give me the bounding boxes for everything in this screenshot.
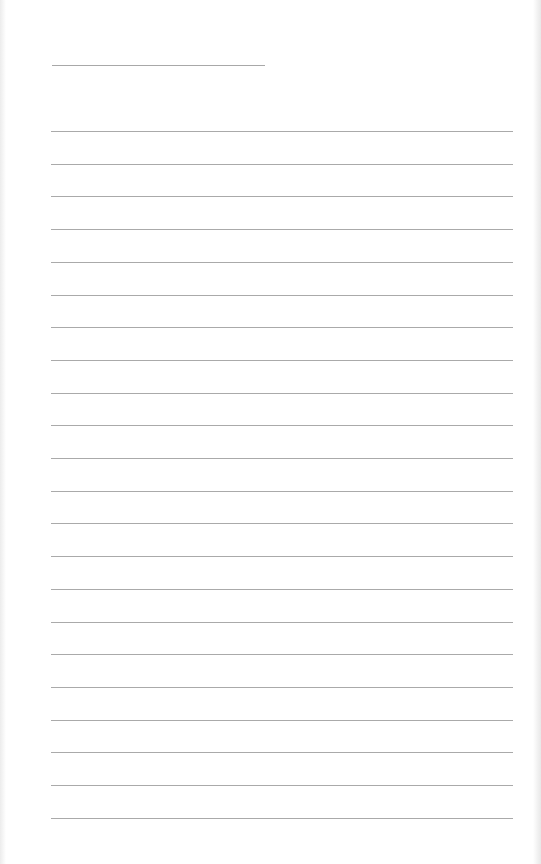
- ruled-line: [51, 491, 513, 492]
- scan-edge-right: [533, 0, 541, 864]
- ruled-line: [51, 818, 513, 819]
- ruled-line: [51, 622, 513, 623]
- ruled-line: [51, 196, 513, 197]
- ruled-line: [51, 589, 513, 590]
- ruled-line: [51, 523, 513, 524]
- ruled-line: [51, 327, 513, 328]
- ruled-line: [51, 360, 513, 361]
- ruled-line: [51, 229, 513, 230]
- ruled-line: [51, 785, 513, 786]
- ruled-line: [51, 458, 513, 459]
- ruled-line: [51, 425, 513, 426]
- ruled-line: [51, 752, 513, 753]
- ruled-line: [51, 262, 513, 263]
- scan-edge-left: [0, 0, 6, 864]
- ruled-line: [51, 393, 513, 394]
- ruled-line: [51, 556, 513, 557]
- ruled-line: [51, 687, 513, 688]
- ruled-line: [51, 654, 513, 655]
- title-line: [52, 65, 265, 66]
- ruled-line: [51, 720, 513, 721]
- ruled-line: [51, 164, 513, 165]
- ruled-line: [51, 131, 513, 132]
- ruled-line: [51, 295, 513, 296]
- lined-paper-page: [0, 0, 541, 864]
